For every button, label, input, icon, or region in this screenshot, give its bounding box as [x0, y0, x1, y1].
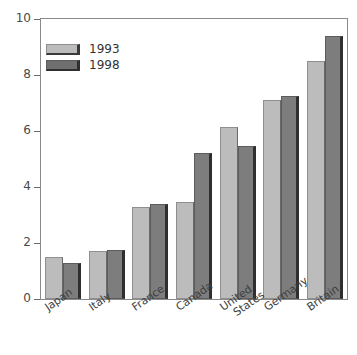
bar-italy-1998 — [107, 250, 125, 299]
y-axis-tick: 10 — [0, 19, 40, 20]
bar-united-states-1998 — [238, 146, 256, 299]
bar-germany-1998 — [281, 96, 299, 299]
y-tick-label: 6 — [23, 123, 31, 138]
y-tick-label: 10 — [16, 11, 31, 26]
legend-swatch — [46, 44, 80, 55]
y-axis-tick: 8 — [0, 75, 40, 76]
legend-item: 1993 — [46, 42, 156, 56]
y-tick-label: 8 — [23, 67, 31, 82]
legend-label: 1998 — [89, 59, 120, 72]
y-tick-label: 2 — [23, 235, 31, 250]
legend-item: 1998 — [46, 58, 156, 72]
bar-group — [216, 19, 260, 299]
bar-canada-1993 — [176, 202, 194, 299]
bar-group — [260, 19, 304, 299]
bar-britain-1998 — [325, 36, 343, 299]
bar-group — [303, 19, 347, 299]
y-axis-tick: 6 — [0, 131, 40, 132]
x-axis: JapanItalyFranceCanadaUnitedStatesGerman… — [0, 300, 357, 355]
chart-legend: 19931998 — [46, 42, 156, 74]
bar-chart: 0246810 JapanItalyFranceCanadaUnitedStat… — [0, 0, 357, 355]
y-axis-tick: 4 — [0, 187, 40, 188]
bar-united-states-1993 — [220, 127, 238, 299]
bar-germany-1993 — [263, 100, 281, 299]
y-axis-tick: 2 — [0, 243, 40, 244]
bar-britain-1993 — [307, 61, 325, 299]
chart-title — [0, 0, 357, 5]
bar-france-1993 — [132, 207, 150, 299]
legend-label: 1993 — [89, 43, 120, 56]
y-tick-label: 4 — [23, 179, 31, 194]
legend-swatch — [46, 60, 80, 71]
bar-group — [172, 19, 216, 299]
bar-canada-1998 — [194, 153, 212, 299]
